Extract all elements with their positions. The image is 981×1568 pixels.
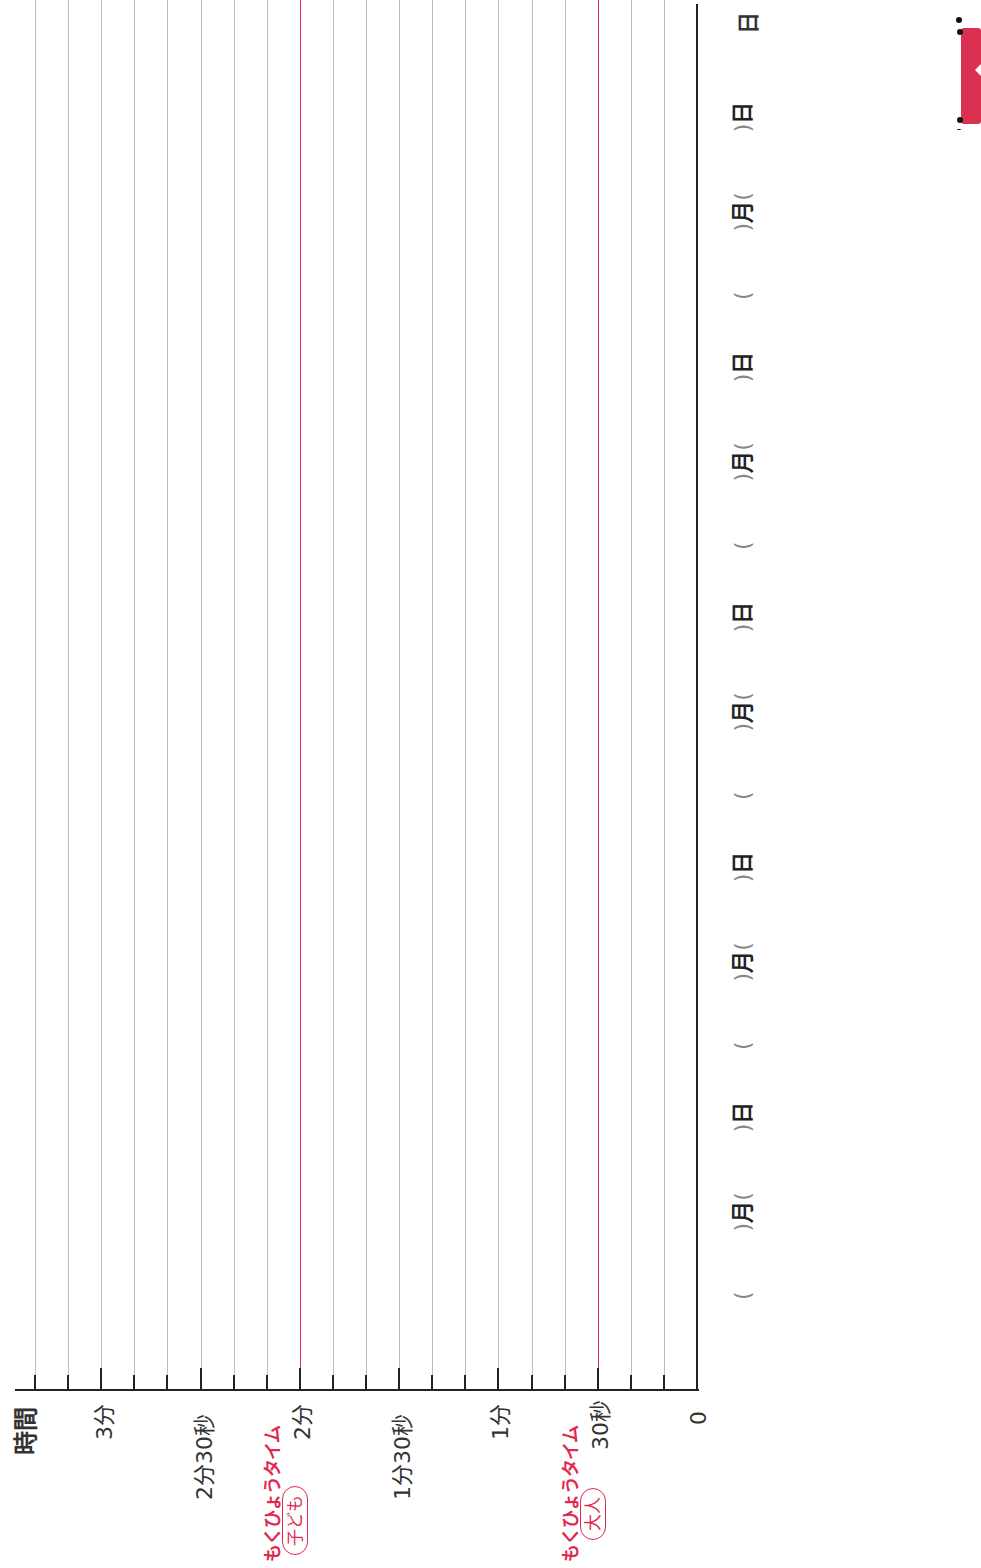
axis-tick: [497, 1368, 499, 1390]
grid-line: [465, 0, 466, 1390]
label-2min: 2分: [284, 1404, 316, 1440]
axis-tick: [332, 1375, 334, 1390]
grid-line: [333, 0, 334, 1390]
decorative-tab-icon: [955, 0, 981, 130]
axis-title-time: 時間: [6, 1407, 41, 1455]
date-label-4: ()月()日: [724, 352, 756, 550]
axis-tick: [663, 1375, 665, 1390]
label-2min30: 2分30秒: [186, 1414, 218, 1500]
date-label-5: ()月()日: [724, 102, 756, 300]
x-axis-baseline: [15, 1389, 699, 1391]
axis-tick: [597, 1368, 599, 1390]
label-zero: 0: [686, 1411, 711, 1425]
date-label-2: ()月()日: [724, 852, 756, 1050]
label-30s: 30秒: [582, 1400, 614, 1450]
axis-tick: [233, 1375, 235, 1390]
grid-line: [399, 0, 400, 1390]
target-child-pill: 子ども: [282, 1486, 308, 1555]
grid-line: [201, 0, 202, 1390]
target-caption-adult: もくひょうタイム: [556, 1426, 582, 1562]
y-axis-line: [696, 4, 698, 1391]
target-reference-line: [598, 0, 599, 1390]
target-badge-child: 子ども: [282, 1486, 308, 1555]
grid-line: [631, 0, 632, 1390]
axis-tick: [630, 1375, 632, 1390]
grid-line: [267, 0, 268, 1390]
date-label-3: ()月()日: [724, 602, 756, 800]
axis-tick: [564, 1375, 566, 1390]
grid-line: [35, 0, 36, 1390]
axis-tick: [365, 1375, 367, 1390]
grid-line: [366, 0, 367, 1390]
target-adult-pill: 大人: [580, 1488, 606, 1540]
axis-tick: [100, 1368, 102, 1390]
grid-line: [432, 0, 433, 1390]
grid-line: [101, 0, 102, 1390]
target-caption-child: もくひょうタイム: [258, 1426, 284, 1562]
date-label-1: ()月()日: [724, 1102, 756, 1300]
grid-line: [68, 0, 69, 1390]
grid-line: [532, 0, 533, 1390]
axis-tick: [200, 1368, 202, 1390]
grid-line: [664, 0, 665, 1390]
target-badge-adult: 大人: [580, 1488, 606, 1540]
target-reference-line: [300, 0, 301, 1390]
axis-tick: [464, 1375, 466, 1390]
axis-tick: [133, 1375, 135, 1390]
axis-tick: [34, 1375, 36, 1390]
label-1min30: 1分30秒: [384, 1414, 416, 1500]
grid-line: [167, 0, 168, 1390]
axis-tick: [431, 1375, 433, 1390]
axis-tick: [531, 1375, 533, 1390]
label-3min: 3分: [86, 1404, 118, 1440]
x-axis-title-day: 日: [730, 12, 762, 34]
grid-line: [234, 0, 235, 1390]
axis-tick: [299, 1368, 301, 1390]
axis-tick: [398, 1368, 400, 1390]
axis-tick: [67, 1375, 69, 1390]
axis-tick: [266, 1375, 268, 1390]
label-1min: 1分: [482, 1404, 514, 1440]
grid-line: [134, 0, 135, 1390]
axis-tick: [166, 1375, 168, 1390]
grid-line: [498, 0, 499, 1390]
grid-line: [565, 0, 566, 1390]
